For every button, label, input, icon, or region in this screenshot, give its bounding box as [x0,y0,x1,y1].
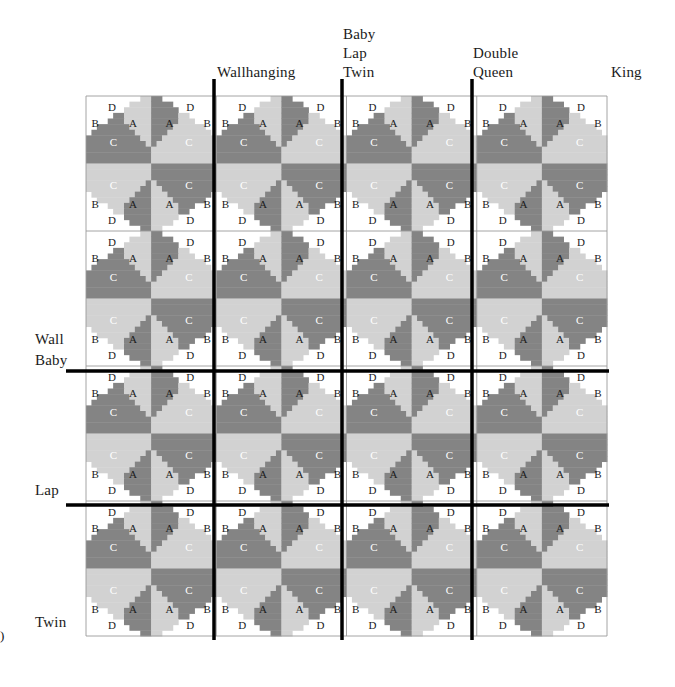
patch-cell [406,411,412,417]
patch-cell [406,180,412,186]
patch-label-c: C [500,541,507,553]
patch-cell [97,394,130,400]
patch-cell [542,580,608,586]
patch-cell [520,355,542,361]
patch-label-c: C [110,584,117,596]
patch-cell [254,214,282,220]
patch-cell [412,220,434,226]
patch-label-b: B [91,333,98,345]
patch-label-d: D [447,236,455,248]
patch-cell [151,310,217,316]
patch-cell [86,169,152,175]
patch-label-b: B [482,198,489,210]
patch-label-c: C [370,179,377,191]
patch-label-b: B [464,252,471,264]
patch-cell [357,394,390,400]
patch-cell [86,574,152,580]
patch-cell [135,130,152,136]
patch-cell [384,484,412,490]
patch-label-d: D [186,506,194,518]
patch-cell [542,490,564,496]
patch-cell [428,400,472,406]
patch-cell [173,332,206,338]
patch-cell [113,383,124,389]
patch-cell [406,546,412,552]
patch-label-a: A [389,198,397,210]
patch-label-b: B [352,522,359,534]
patch-cell [412,299,478,305]
patch-cell [216,164,282,170]
patch-cell [281,135,292,141]
patch-cell [108,119,125,125]
patch-cell [86,439,152,445]
patch-cell [412,422,478,428]
patch-cell [151,411,157,417]
patch-cell [151,287,217,293]
patch-cell [281,270,292,276]
patch-cell [281,293,347,299]
patch-cell [216,304,282,310]
patch-cell [167,327,211,333]
patch-cell [412,169,478,175]
patch-cell [384,242,412,248]
patch-label-a: A [556,333,564,345]
patch-cell [482,535,526,541]
patch-label-b: B [203,333,210,345]
patch-cell [542,242,570,248]
patch-label-d: D [316,484,324,496]
patch-cell [140,270,151,276]
patch-cell [91,327,135,333]
patch-cell [281,552,347,558]
patch-cell [91,597,135,603]
patch-cell [151,360,162,366]
patch-cell [281,315,287,321]
patch-label-c: C [185,449,192,461]
patch-cell [151,439,217,445]
patch-cell [498,524,515,530]
patch-cell [216,282,282,288]
patch-cell [384,619,412,625]
patch-label-c: C [576,314,583,326]
patch-label-a: A [296,333,304,345]
patch-cell [86,304,152,310]
patch-label-d: D [369,484,377,496]
patch-label-a: A [426,468,434,480]
patch-cell [151,591,162,597]
patch-cell [222,462,266,468]
patch-cell [477,445,543,451]
patch-label-c: C [110,136,117,148]
patch-cell [151,507,173,513]
patch-cell [271,135,282,141]
patch-label-c: C [110,314,117,326]
patch-label-b: B [594,198,601,210]
patch-cell [86,310,152,316]
patch-cell [97,332,130,338]
patch-label-a: A [520,117,528,129]
patch-cell [401,495,412,501]
patch-cell [412,512,440,518]
patch-cell [401,231,412,237]
patch-cell [151,569,217,575]
quilt-chart: Wallhanging Baby Lap Twin Double Queen K… [0,0,675,687]
patch-cell [526,130,543,136]
patch-cell [374,518,385,524]
patch-cell [542,327,559,333]
patch-cell [151,304,217,310]
patch-cell [368,608,385,614]
patch-cell [515,349,543,355]
patch-label-b: B [203,468,210,480]
patch-cell [86,287,152,293]
patch-cell [412,563,478,569]
patch-label-c: C [315,406,322,418]
patch-cell [151,147,217,153]
patch-cell [542,535,559,541]
patch-cell [520,102,542,108]
patch-cell [97,529,130,535]
patch-cell [178,119,195,125]
patch-cell [303,332,336,338]
patch-label-a: A [296,522,304,534]
patch-cell [542,377,570,383]
patch-label-c: C [370,541,377,553]
patch-cell [151,585,157,591]
patch-cell [406,141,412,147]
